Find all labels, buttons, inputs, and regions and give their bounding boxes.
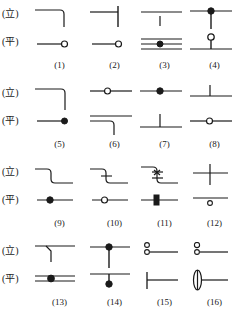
symbol-cell-13: (13) [33,237,86,316]
view-label-elevation: (立) [2,166,32,178]
symbol-12-plan [188,190,241,217]
symbol-row-2: (立) (平) (5) [0,79,243,158]
symbol-number-11: (11) [138,218,191,229]
symbol-15-plan [138,269,191,296]
symbol-16-elevation [188,242,241,269]
symbol-9-elevation [33,163,86,190]
symbol-row-4: (立) (平) (13) [0,237,243,316]
symbol-6-elevation [88,84,141,111]
view-label-plan: (平) [2,194,32,206]
symbol-cell-12: (12) [188,158,241,237]
view-label-plan: (平) [2,273,32,285]
symbol-row-1: (立) (平) (1) [0,0,243,79]
symbol-2-elevation [88,5,141,32]
symbol-14-elevation [88,242,141,269]
symbol-4-elevation [188,5,241,32]
symbol-number-9: (9) [33,218,86,229]
symbol-7-elevation [138,84,191,111]
symbol-number-16: (16) [188,297,241,308]
symbol-number-5: (5) [33,139,86,150]
symbol-13-elevation [33,242,86,269]
symbol-cell-14: (14) [88,237,141,316]
symbol-7-plan [138,111,191,138]
symbol-2-plan [88,32,141,59]
symbol-4-plan [188,32,241,59]
view-label-elevation: (立) [2,8,32,20]
symbol-cell-6: (6) [88,79,141,158]
symbol-number-2: (2) [88,60,141,71]
symbol-5-plan [33,111,86,138]
symbol-cell-1: (1) [33,0,86,79]
symbol-11-plan [138,190,191,217]
symbol-13-plan [33,269,86,296]
symbol-number-13: (13) [33,297,86,308]
symbol-number-15: (15) [138,297,191,308]
view-label-plan: (平) [2,36,32,48]
symbol-cell-5: (5) [33,79,86,158]
symbol-16-plan [188,269,241,296]
symbol-cell-8: (8) [188,79,241,158]
symbol-legend-figure: (立) (平) (1) [0,0,243,316]
symbol-3-elevation [138,5,191,32]
symbol-5-elevation [33,84,86,111]
symbol-number-1: (1) [33,60,86,71]
symbol-number-14: (14) [88,297,141,308]
symbol-cell-2: (2) [88,0,141,79]
symbol-number-4: (4) [188,60,241,71]
symbol-11-elevation [138,163,191,190]
symbol-cell-9: (9) [33,158,86,237]
symbol-number-10: (10) [88,218,141,229]
symbol-8-plan [188,111,241,138]
symbol-14-plan [88,269,141,296]
view-label-elevation: (立) [2,87,32,99]
symbol-8-elevation [188,84,241,111]
symbol-number-3: (3) [138,60,191,71]
symbol-10-elevation [88,163,141,190]
symbol-cell-11: (11) [138,158,191,237]
view-label-plan: (平) [2,115,32,127]
symbol-number-7: (7) [138,139,191,150]
symbol-cell-3: (3) [138,0,191,79]
symbol-cell-4: (4) [188,0,241,79]
symbol-1-plan [33,32,86,59]
symbol-cell-15: (15) [138,237,191,316]
view-label-elevation: (立) [2,245,32,257]
symbol-9-plan [33,190,86,217]
symbol-6-plan [88,111,141,138]
symbol-row-3: (立) (平) (9) [0,158,243,237]
symbol-1-elevation [33,5,86,32]
symbol-number-12: (12) [188,218,241,229]
symbol-12-elevation [188,163,241,190]
symbol-number-8: (8) [188,139,241,150]
symbol-cell-10: (10) [88,158,141,237]
symbol-number-6: (6) [88,139,141,150]
symbol-15-elevation [138,242,191,269]
symbol-cell-7: (7) [138,79,191,158]
symbol-3-plan [138,32,191,59]
symbol-cell-16: (16) [188,237,241,316]
symbol-10-plan [88,190,141,217]
